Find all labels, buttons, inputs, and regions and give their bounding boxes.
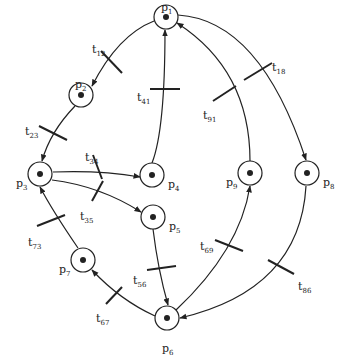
- place-label-p1: p1: [161, 1, 173, 16]
- arc-p2-t23-p3: [42, 106, 75, 161]
- arc-p1-t18-p8: [178, 15, 306, 160]
- place-label-p2: p2: [75, 78, 87, 93]
- transition-label-t56: t56: [133, 274, 147, 289]
- transition-t18[interactable]: [244, 63, 272, 80]
- transition-label-t34: t34: [85, 151, 99, 166]
- transition-t86[interactable]: [268, 260, 294, 274]
- place-p4[interactable]: [140, 163, 164, 187]
- token-icon: [80, 257, 86, 263]
- token-icon: [164, 315, 170, 321]
- place-label-p5: p5: [169, 220, 181, 235]
- arc-p9-t91-p1: [177, 23, 250, 161]
- transition-label-t41: t41: [137, 91, 150, 106]
- place-label-p9: p9: [226, 176, 238, 191]
- token-icon: [37, 171, 43, 177]
- place-p3[interactable]: [28, 162, 52, 186]
- transition-t91[interactable]: [213, 86, 236, 101]
- transition-label-t69: t69: [200, 240, 213, 255]
- place-p9[interactable]: [238, 161, 262, 185]
- arc-p6-t67-p7: [92, 270, 155, 316]
- place-label-p7: p7: [59, 263, 71, 278]
- place-label-p4: p4: [168, 178, 180, 193]
- transition-label-t35: t35: [80, 210, 93, 225]
- place-p6[interactable]: [155, 306, 179, 330]
- transition-label-t67: t67: [96, 312, 109, 327]
- transition-label-t12: t12: [92, 43, 105, 58]
- place-label-p6: p6: [162, 342, 174, 357]
- arc-p3-t35-p5: [52, 180, 141, 212]
- transition-t73[interactable]: [37, 215, 65, 226]
- place-p7[interactable]: [71, 248, 95, 272]
- transition-label-t73: t73: [28, 236, 41, 251]
- arc-p4-t41-p1: [152, 30, 165, 163]
- petri-net-diagram: p1p2p3p4p5p6p7p8p9t12t23t34t35t41t18t91t…: [0, 0, 344, 357]
- token-icon: [150, 214, 156, 220]
- token-icon: [304, 170, 310, 176]
- place-p5[interactable]: [141, 205, 165, 229]
- transition-label-t86: t86: [298, 280, 312, 295]
- transition-t35[interactable]: [92, 181, 103, 201]
- arc-p8-t86-p6: [180, 186, 306, 318]
- transition-label-t91: t91: [203, 109, 216, 124]
- token-icon: [247, 170, 253, 176]
- place-label-p8: p8: [323, 176, 335, 191]
- transition-t69[interactable]: [215, 240, 243, 251]
- transition-label-t18: t18: [272, 61, 285, 76]
- transition-t56[interactable]: [147, 266, 176, 270]
- transition-label-t23: t23: [25, 125, 38, 140]
- token-icon: [149, 172, 155, 178]
- transition-t23[interactable]: [39, 126, 67, 140]
- place-p8[interactable]: [295, 161, 319, 185]
- arc-p3-t34-p4: [53, 172, 140, 177]
- place-label-p3: p3: [16, 177, 28, 192]
